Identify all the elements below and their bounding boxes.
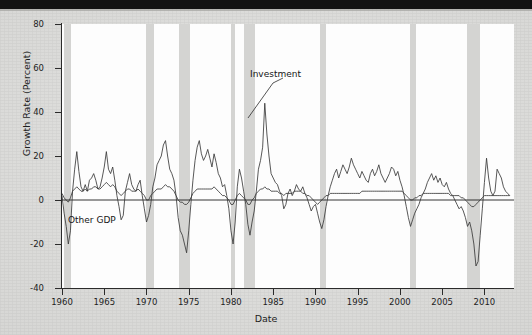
x-tick-label-1995: 1995 [347,297,369,307]
investment-annotation-label: Investment [250,69,301,79]
x-axis-line [61,288,514,289]
y-tick-60 [55,68,61,69]
y-tick-label-0: 0 [39,195,44,205]
y-tick-label-80: 80 [33,19,44,29]
y-tick--40 [55,288,61,289]
x-tick-2005 [442,289,443,295]
y-tick-40 [55,112,61,113]
y-tick--20 [55,244,61,245]
other-gdp-annotation-label: Other GDP [68,215,116,225]
x-tick-1975 [189,289,190,295]
x-tick-label-2010: 2010 [474,297,496,307]
y-tick-label--20: -20 [30,239,44,249]
plot-area [62,24,514,288]
figure-page: -40-20020406080 196019651970197519801985… [0,0,532,335]
x-tick-label-1970: 1970 [136,297,158,307]
series-lines-group [62,24,514,288]
y-tick-0 [55,200,61,201]
y-axis-line [61,23,62,289]
x-tick-1965 [104,289,105,295]
x-tick-label-2005: 2005 [431,297,453,307]
x-tick-1970 [146,289,147,295]
y-tick-label--40: -40 [30,283,44,293]
x-axis-title: Date [0,313,532,324]
x-tick-2000 [400,289,401,295]
x-tick-2010 [484,289,485,295]
x-tick-label-1985: 1985 [262,297,284,307]
x-tick-label-1990: 1990 [305,297,327,307]
x-tick-1995 [358,289,359,295]
x-tick-label-1980: 1980 [220,297,242,307]
y-tick-80 [55,24,61,25]
x-tick-1960 [62,289,63,295]
x-tick-label-2000: 2000 [389,297,411,307]
x-tick-label-1965: 1965 [93,297,115,307]
y-tick-label-60: 60 [33,63,44,73]
y-tick-20 [55,156,61,157]
x-tick-label-1960: 1960 [51,297,73,307]
series-line-investment [62,103,510,266]
x-tick-1980 [231,289,232,295]
x-tick-1990 [315,289,316,295]
x-tick-1985 [273,289,274,295]
x-tick-label-1975: 1975 [178,297,200,307]
y-tick-label-40: 40 [33,107,44,117]
growth-rate-chart: -40-20020406080 196019651970197519801985… [0,0,532,335]
y-axis-title: Growth Rate (Percent) [21,34,32,174]
y-tick-label-20: 20 [33,151,44,161]
